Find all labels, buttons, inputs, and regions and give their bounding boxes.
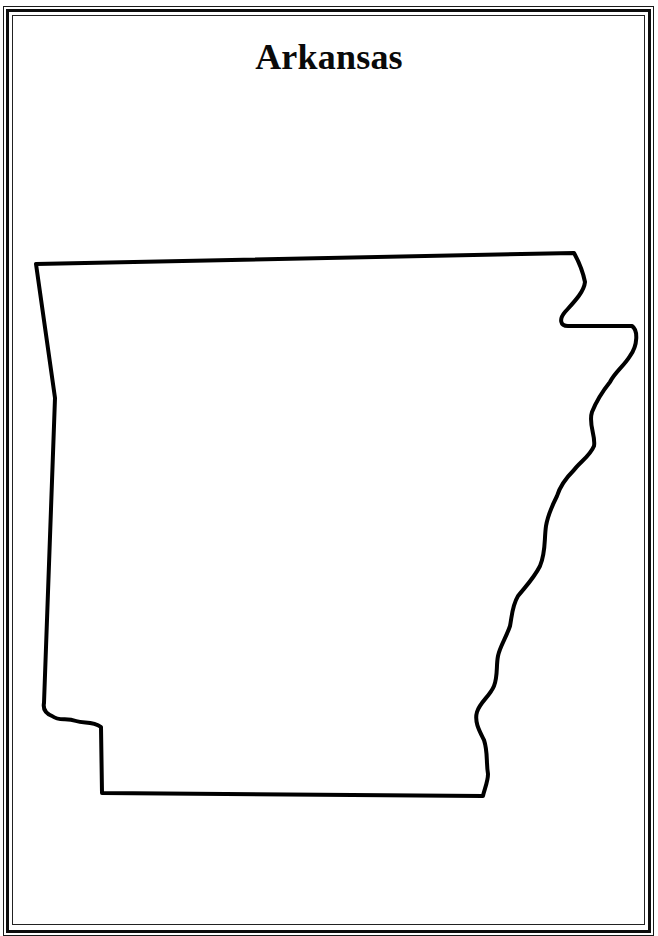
state-outline [36,253,636,796]
